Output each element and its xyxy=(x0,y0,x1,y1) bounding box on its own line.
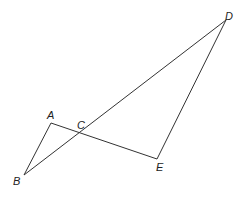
label-C: C xyxy=(77,119,85,131)
segment-AB xyxy=(24,123,51,175)
label-D: D xyxy=(225,10,233,22)
segment-BD xyxy=(24,20,226,175)
label-B: B xyxy=(13,175,20,187)
geometry-diagram: A B C D E xyxy=(0,0,244,197)
segment-DE xyxy=(157,20,226,159)
segment-AE xyxy=(51,123,157,159)
label-E: E xyxy=(156,161,164,173)
label-A: A xyxy=(46,109,54,121)
